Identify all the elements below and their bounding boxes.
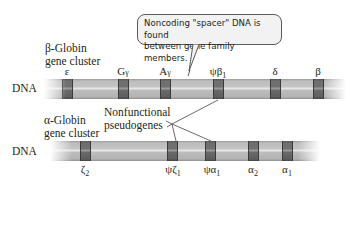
gene-label-psi-beta1: ψβ1 — [203, 65, 233, 80]
gene-label-beta: β — [303, 65, 333, 77]
gene-label-g-gamma: Gγ — [108, 65, 138, 77]
beta-title-line-1: β-Globin — [45, 42, 100, 55]
beta-dna-label: DNA — [12, 82, 37, 94]
gene-label-epsilon: ε — [52, 65, 82, 77]
gene-psi-zeta1 — [167, 141, 178, 161]
gene-label-delta: δ — [260, 65, 290, 77]
gene-label-zeta2: ζ2 — [70, 163, 100, 178]
gene-alpha2 — [248, 141, 259, 161]
gene-label-a-gamma: Aγ — [150, 65, 180, 77]
gene-beta — [313, 79, 324, 99]
gene-g-gamma — [118, 79, 129, 99]
alpha-dna-label: DNA — [12, 145, 37, 157]
gene-psi-alpha1 — [205, 141, 216, 161]
alpha-dna-strip — [50, 141, 320, 161]
callout-tail — [189, 45, 199, 72]
alpha-globin-cluster-title: α-Globin gene cluster — [44, 114, 99, 140]
leader-to-psi-zeta1 — [172, 124, 176, 141]
gene-label-psi-zeta1: ψζ1 — [158, 163, 188, 178]
gene-alpha1 — [282, 141, 293, 161]
gene-label-alpha1: α1 — [272, 163, 302, 178]
leader-to-psi-alpha1 — [172, 124, 211, 141]
gene-psi-beta1 — [213, 79, 224, 99]
leader-to-psi-beta1 — [172, 100, 218, 124]
gene-zeta2 — [80, 141, 91, 161]
pseudogenes-label: Nonfunctional pseudogenes — [104, 106, 170, 132]
pseudogenes-line-1: Nonfunctional — [104, 106, 170, 119]
gene-delta — [270, 79, 281, 99]
pseudogenes-line-2: pseudogenes — [104, 119, 170, 132]
gene-label-alpha2: α2 — [238, 163, 268, 178]
gene-label-psi-alpha1: ψα1 — [197, 163, 227, 178]
alpha-title-line-1: α-Globin — [44, 114, 99, 127]
gene-a-gamma — [160, 79, 171, 99]
beta-dna-strip — [44, 79, 346, 99]
alpha-title-line-2: gene cluster — [44, 127, 99, 140]
